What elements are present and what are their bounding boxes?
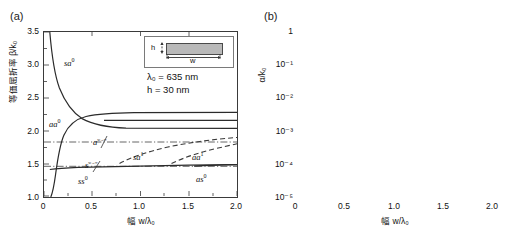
panel-a-xtick-0: 0 xyxy=(31,201,55,211)
panel-a-x-axis-label: 幅 w/λ₀ xyxy=(93,214,189,226)
panel-a-label-aa0: aa0 xyxy=(49,118,61,129)
figure-container: (a) 等価屈折率 β/k₀ 3.5 3.0 2.5 2.0 1.5 1.0 0… xyxy=(0,0,508,240)
inset-dimension-arrows xyxy=(145,37,233,67)
panel-a-annotation-height: h = 30 nm xyxy=(147,84,190,97)
panel-b-xtick-2: 1.0 xyxy=(382,201,406,211)
panel-a-xtick-4: 2.0 xyxy=(224,201,248,211)
panel-b-ytick-2: 10⁻² xyxy=(260,92,293,102)
panel-a-ytick-3: 2.0 xyxy=(8,126,39,136)
panel-a-xtick-3: 1.5 xyxy=(176,201,200,211)
panel-a-label-as0: as0 xyxy=(196,173,207,184)
panel-a-xtick-2: 1.0 xyxy=(127,201,151,211)
panel-a-xtick-1: 0.5 xyxy=(79,201,103,211)
panel-b-xtick-4: 2.0 xyxy=(480,201,504,211)
panel-a-annotation-lambda: λ₀ = 635 nm xyxy=(147,71,198,84)
panel-a: (a) 等価屈折率 β/k₀ 3.5 3.0 2.5 2.0 1.5 1.0 0… xyxy=(0,0,254,240)
panel-a-ytick-4: 1.5 xyxy=(8,159,39,169)
panel-b-y-axis-label: α/k₀ xyxy=(257,25,267,125)
panel-b-ytick-3: 10⁻³ xyxy=(260,126,293,136)
panel-b-x-axis-label: 幅 w/λ₀ xyxy=(347,214,443,226)
panel-b-ytick-0: 1 xyxy=(260,26,293,36)
panel-a-label-a-winf: aw→∞ xyxy=(93,137,106,147)
panel-b-xtick-3: 1.5 xyxy=(431,201,455,211)
panel-b-xtick-0: 0 xyxy=(283,201,307,211)
panel-a-ytick-2: 2.5 xyxy=(8,92,39,102)
panel-b-xtick-1: 0.5 xyxy=(332,201,356,211)
panel-b-tag: (b) xyxy=(264,10,277,22)
panel-a-label-sa0: sa0 xyxy=(64,57,75,68)
panel-a-ytick-1: 3.0 xyxy=(8,59,39,69)
panel-b-ytick-1: 10⁻¹ xyxy=(260,59,293,69)
panel-a-label-aa1: aa1 xyxy=(192,151,204,162)
panel-a-label-ss0: ss0 xyxy=(78,175,88,186)
panel-b-ytick-4: 10⁻⁴ xyxy=(260,159,293,169)
panel-a-ytick-0: 3.5 xyxy=(8,26,39,36)
inset-waveguide-diagram: h w xyxy=(144,36,234,68)
panel-a-label-s-winf: sw→∞ xyxy=(85,160,97,170)
panel-a-plot-area: h w λ₀ = 635 nm h = 30 nm xyxy=(43,31,238,198)
panel-a-label-sa1: sa1 xyxy=(133,151,144,162)
panel-b: (b) α/k₀ 1 10⁻¹ 10⁻² 10⁻³ 10⁻⁴ 10⁻⁵ 0 0.… xyxy=(254,0,508,240)
panel-a-curve-aa1 xyxy=(172,144,238,164)
